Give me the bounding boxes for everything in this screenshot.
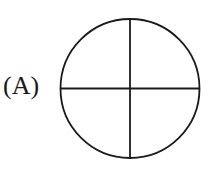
quartered-circle-figure — [0, 0, 219, 171]
